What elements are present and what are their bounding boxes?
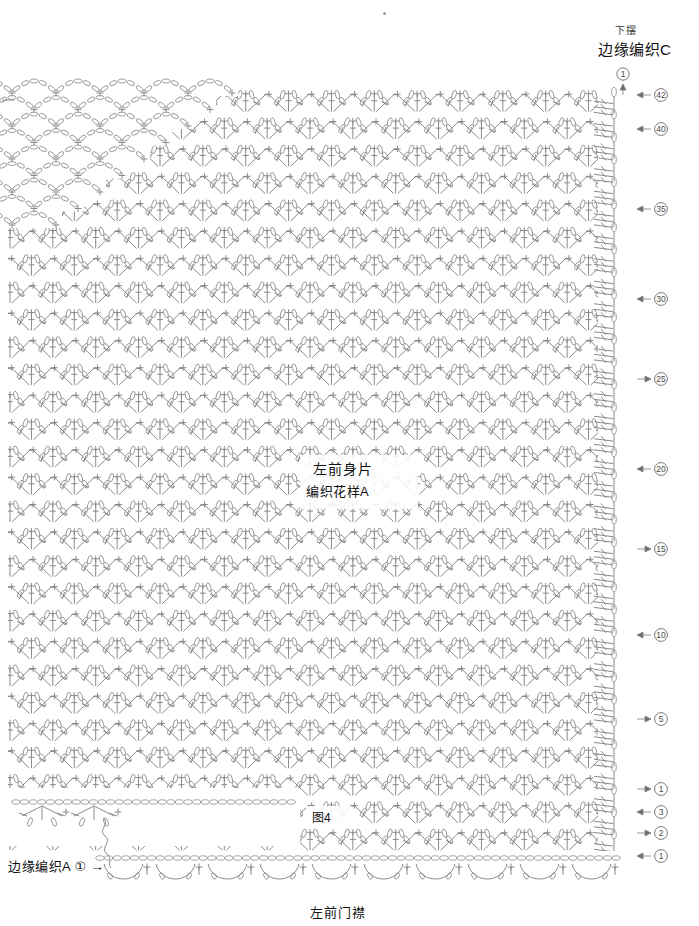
row-marker-label: 25 xyxy=(656,374,666,384)
edge-c-label: 边缘编织C xyxy=(598,42,671,57)
stray-mark-dot xyxy=(383,12,386,15)
row-marker-label: 35 xyxy=(656,204,666,214)
row-marker-label: 3 xyxy=(659,807,664,817)
row-marker-label: 15 xyxy=(656,544,666,554)
row-marker-label: 30 xyxy=(656,294,666,304)
figure-number-label: 图4 xyxy=(312,812,331,824)
row-marker-label: 10 xyxy=(656,630,666,640)
row-marker-label: 2 xyxy=(659,828,664,838)
edge-a-label: 边缘编织A ① → xyxy=(8,860,104,873)
hem-label: 下摆 xyxy=(615,26,637,36)
edge-a-text: 边缘编织A xyxy=(8,859,70,874)
body-piece-label: 左前身片 xyxy=(313,462,373,476)
svg-text:1: 1 xyxy=(621,69,626,79)
row-marker-label: 1 xyxy=(659,851,664,861)
row-marker-label: 1 xyxy=(659,784,664,794)
row-marker-label: 42 xyxy=(656,90,666,100)
row-marker-label: 20 xyxy=(656,464,666,474)
edge-a-marker: ① xyxy=(75,859,87,874)
pattern-a-label: 编织花样A xyxy=(306,485,369,498)
row-marker-label: 5 xyxy=(659,714,664,724)
front-placket-label: 左前门襟 xyxy=(310,906,366,919)
crochet-chart-canvas: 下摆 边缘编织C 左前身片 编织花样A 图4 边缘编织A ① → 左前门襟 xyxy=(0,0,699,926)
row-marker-label: 40 xyxy=(656,124,666,134)
